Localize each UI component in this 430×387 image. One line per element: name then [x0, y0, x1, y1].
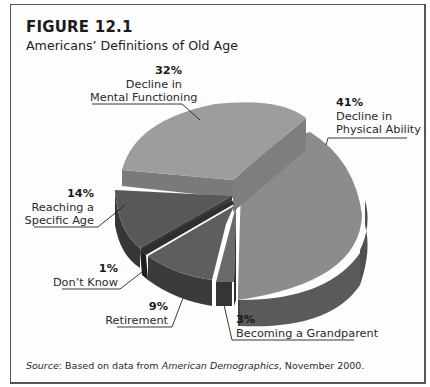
label-mental-functioning: 32% Decline in Mental Functioning — [90, 64, 182, 105]
label-dont-know: 1% Don’t Know — [50, 262, 118, 289]
label-grandparent: 3% Becoming a Grandparent — [236, 313, 378, 340]
label-specific-age: 14% Reaching a Specific Age — [20, 187, 94, 228]
label-retirement: 9% Retirement — [100, 300, 168, 327]
source-note: Source: Based on data from American Demo… — [26, 360, 364, 371]
label-physical-ability: 41% Decline in Physical Ability — [336, 96, 421, 137]
